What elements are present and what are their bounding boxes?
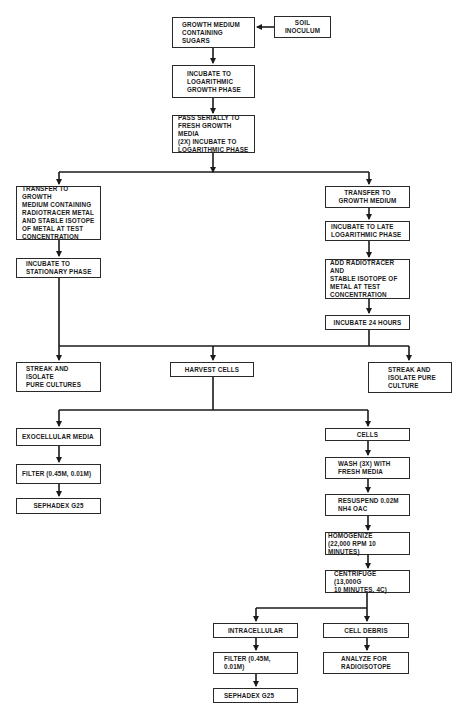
node-transfer-radiotracer: TRANSFER TO GROWTH MEDIUM CONTAINING RAD…: [16, 186, 101, 240]
node-transfer-growth: TRANSFER TO GROWTH MEDIUM: [325, 186, 410, 208]
node-centrifuge: CENTRIFUGE (13,000g 10 MINUTES, 4C): [325, 570, 410, 593]
node-label: TRANSFER TO GROWTH MEDIUM CONTAINING RAD…: [22, 185, 95, 241]
node-soil-inoculum: SOIL INOCULUM: [274, 16, 331, 38]
node-incubate-log: INCUBATE TO LOGARITHMIC GROWTH PHASE: [172, 65, 255, 98]
node-label: CELL DEBRIS: [344, 627, 388, 635]
node-label: SOIL INOCULUM: [280, 19, 325, 35]
node-growth-medium: GROWTH MEDIUM CONTAINING SUGARS: [172, 17, 255, 48]
node-harvest-cells: HARVEST CELLS: [170, 362, 254, 377]
node-homogenize: HOMOGENIZE (22,000 RPM 10 MINUTES): [325, 532, 410, 555]
node-incubate-24: INCUBATE 24 HOURS: [325, 315, 410, 330]
node-intracellular: INTRACELLULAR: [213, 623, 298, 638]
flowchart: GROWTH MEDIUM CONTAINING SUGARS SOIL INO…: [0, 0, 459, 711]
node-label: EXOCELLULAR MEDIA: [22, 433, 94, 441]
node-wash: WASH (3x) WITH FRESH MEDIA: [325, 457, 410, 479]
node-label: SEPHADEX G25: [224, 692, 274, 700]
node-label: STREAK AND ISOLATE PURE CULTURE: [388, 366, 436, 390]
node-label: CENTRIFUGE (13,000g 10 MINUTES, 4C): [334, 570, 404, 594]
node-sephadex-left: SEPHADEX G25: [16, 498, 101, 514]
node-incubate-stationary: INCUBATE TO STATIONARY PHASE: [16, 258, 101, 278]
node-label: ANALYZE FOR RADIOISOTOPE: [341, 655, 391, 671]
node-label: CELLS: [357, 431, 378, 439]
node-streak-right: STREAK AND ISOLATE PURE CULTURE: [368, 362, 452, 393]
node-filter-left: FILTER (0.45µ, 0.01µ): [16, 464, 101, 484]
node-label: PASS SERIALLY TO FRESH GROWTH MEDIA (2x)…: [178, 114, 249, 154]
node-label: INCUBATE TO LOGARITHMIC GROWTH PHASE: [187, 70, 241, 94]
node-streak-left: STREAK AND ISOLATE PURE CULTURES: [16, 362, 101, 392]
node-cell-debris: CELL DEBRIS: [323, 623, 409, 638]
connector-lines: [0, 0, 459, 711]
node-add-radiotracer: ADD RADIOTRACER AND STABLE ISOTOPE OF ME…: [325, 259, 410, 299]
node-label: INCUBATE 24 HOURS: [334, 319, 402, 327]
node-label: RESUSPEND 0.02M NH4 OAc: [338, 497, 399, 513]
node-exocellular: EXOCELLULAR MEDIA: [16, 428, 101, 446]
node-sephadex-bottom: SEPHADEX G25: [213, 688, 298, 703]
node-label: INCUBATE TO STATIONARY PHASE: [26, 260, 92, 276]
node-label: GROWTH MEDIUM CONTAINING SUGARS: [182, 21, 240, 45]
node-label: ADD RADIOTRACER AND STABLE ISOTOPE OF ME…: [330, 259, 404, 299]
node-analyze: ANALYZE FOR RADIOISOTOPE: [323, 652, 409, 674]
node-label: WASH (3x) WITH FRESH MEDIA: [338, 460, 390, 476]
node-label: TRANSFER TO GROWTH MEDIUM: [339, 189, 397, 205]
node-label: SEPHADEX G25: [33, 502, 83, 510]
node-label: INCUBATE TO LATE LOGARITHMIC PHASE: [331, 223, 401, 239]
node-resuspend: RESUSPEND 0.02M NH4 OAc: [325, 494, 410, 516]
node-label: HOMOGENIZE (22,000 RPM 10 MINUTES): [328, 532, 404, 556]
node-label: FILTER (0.45µ, 0.01µ): [224, 655, 271, 671]
node-pass-serially: PASS SERIALLY TO FRESH GROWTH MEDIA (2x)…: [172, 115, 255, 153]
node-label: INTRACELLULAR: [228, 627, 283, 635]
node-label: STREAK AND ISOLATE PURE CULTURES: [26, 365, 95, 389]
node-cells: CELLS: [325, 428, 410, 441]
node-filter-bottom: FILTER (0.45µ, 0.01µ): [213, 652, 298, 674]
node-incubate-late-log: INCUBATE TO LATE LOGARITHMIC PHASE: [325, 221, 410, 241]
node-label: HARVEST CELLS: [185, 366, 239, 374]
node-label: FILTER (0.45µ, 0.01µ): [22, 470, 91, 478]
